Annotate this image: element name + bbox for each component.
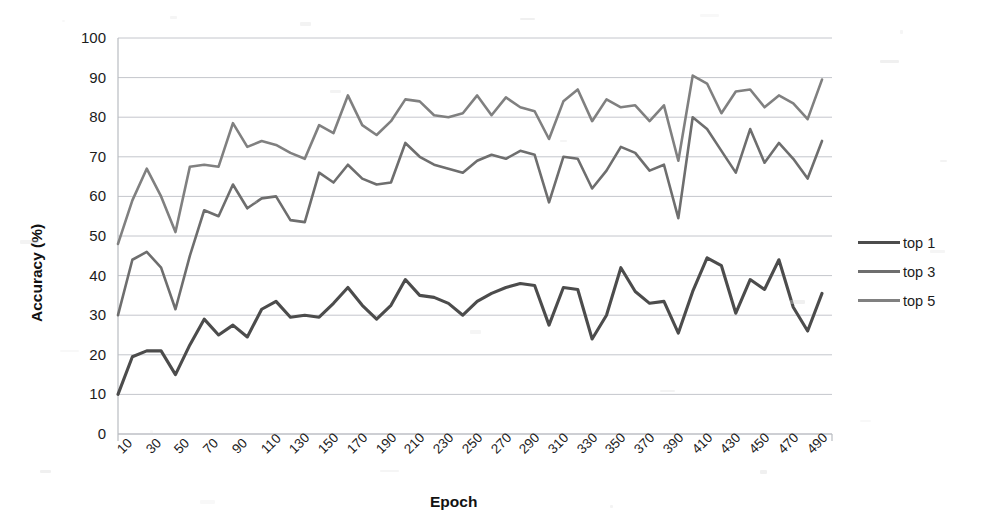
legend-item-top-1[interactable]: top 1 [858, 228, 978, 257]
scan-speck [560, 140, 567, 142]
scan-speck [62, 20, 65, 22]
y-tick-label: 100 [66, 29, 106, 46]
legend-swatch-icon [858, 270, 900, 273]
scan-speck [940, 160, 947, 162]
scan-speck [330, 90, 341, 93]
legend-item-label: top 1 [903, 235, 935, 251]
x-axis-title: Epoch [430, 493, 477, 511]
scan-speck [470, 330, 481, 334]
series-line-top-3 [118, 117, 822, 315]
series-line-top-5 [118, 76, 822, 244]
scan-speck [660, 390, 675, 392]
scan-speck [380, 470, 399, 472]
scan-speck [900, 30, 903, 34]
legend-item-top-3[interactable]: top 3 [858, 257, 978, 286]
y-tick-label: 40 [66, 267, 106, 284]
y-tick-label: 90 [66, 69, 106, 86]
y-tick-label: 50 [66, 227, 106, 244]
legend-swatch-icon [858, 299, 900, 302]
y-tick-label: 0 [66, 425, 106, 442]
chart-legend: top 1top 3top 5 [858, 228, 978, 315]
scan-speck [20, 240, 39, 244]
y-tick-label: 20 [66, 346, 106, 363]
scan-speck [300, 22, 311, 26]
scan-speck [700, 14, 719, 17]
scan-speck [930, 250, 945, 253]
legend-swatch-icon [858, 241, 900, 244]
legend-item-label: top 5 [903, 293, 935, 309]
scan-speck [40, 470, 51, 473]
series-lines [118, 76, 822, 395]
scan-speck [170, 16, 177, 19]
y-tick-label: 30 [66, 306, 106, 323]
scan-speck [520, 18, 535, 20]
y-tick-label: 70 [66, 148, 106, 165]
y-tick-label: 10 [66, 385, 106, 402]
legend-item-top-5[interactable]: top 5 [858, 286, 978, 315]
scan-speck [610, 505, 613, 508]
y-axis-title: Accuracy (%) [28, 224, 46, 322]
scan-speck [60, 350, 79, 352]
scan-speck [860, 420, 871, 422]
scan-speck [250, 200, 257, 203]
scan-speck [200, 500, 215, 504]
scan-speck [150, 430, 153, 434]
series-line-top-1 [118, 258, 822, 395]
y-tick-label: 60 [66, 187, 106, 204]
scan-speck [790, 300, 805, 304]
chart-container: 0102030405060708090100 10305070901101301… [0, 0, 986, 526]
scan-speck [880, 60, 899, 63]
legend-item-label: top 3 [903, 264, 935, 280]
scan-speck [760, 470, 767, 474]
scan-speck [100, 110, 103, 112]
